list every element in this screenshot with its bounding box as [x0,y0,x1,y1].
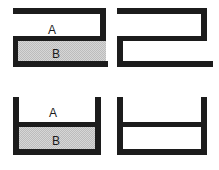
panel-top-left-s-shape-labeled: A B [0,0,115,85]
panel-bottom-right-u-shape-plain [110,85,219,170]
chamber-label-b-top-left: B [52,48,60,60]
s-shape-labeled-drawing [0,0,115,85]
chamber-label-b-bottom-left: B [52,135,60,147]
chamber-label-a-top-left: A [48,24,56,36]
u-shape-plain-drawing [110,85,219,170]
wall-bottom-bar-top-right [117,61,213,67]
wall-top-bar-top-right [117,8,207,14]
wall-top-bar-top-left [13,8,104,14]
wall-divider-bottom-right [117,122,207,127]
s-shape-plain-drawing [110,0,219,85]
chamber-b-hatch-top-left [18,41,106,61]
chamber-label-a-bottom-left: A [49,107,57,119]
panel-top-right-s-shape-plain [110,0,219,85]
panel-bottom-left-u-shape-labeled: A B [0,85,115,170]
wall-bottom-bar-bottom-left [13,149,101,155]
wall-divider-bottom-left [13,122,101,127]
figure-canvas: A B [0,0,219,170]
chamber-a-interior-bottom-right [123,102,201,122]
chamber-a-interior-top-left [18,14,100,36]
chamber-a-interior-top-right [117,14,202,36]
chamber-b-interior-bottom-right [123,127,201,149]
wall-bottom-bar-top-left [13,61,108,67]
wall-bottom-bar-bottom-right [117,149,207,155]
wall-divider-top-left [13,36,106,41]
chamber-b-interior-top-right [122,41,207,61]
wall-lower-left-top-left [13,36,18,65]
u-shape-labeled-drawing [0,85,115,170]
wall-upper-left-stub-top-left [13,8,18,14]
wall-divider-top-right [117,36,207,41]
